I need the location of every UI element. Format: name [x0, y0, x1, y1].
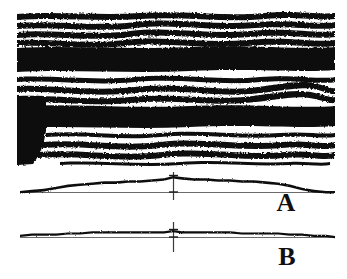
strong-solid-band	[17, 105, 335, 128]
strong-solid-band	[17, 46, 335, 72]
seismic-figure: A B	[0, 0, 347, 279]
seismic-section-panel	[17, 12, 335, 166]
panel-a-label: A	[277, 188, 296, 217]
figure-root: A B	[0, 0, 347, 279]
panel-b-label: B	[278, 242, 295, 271]
